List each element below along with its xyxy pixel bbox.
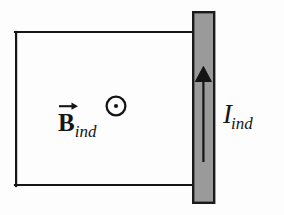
physics-figure: B ind Iind [0, 0, 284, 215]
figure-canvas [0, 0, 284, 215]
field-out-of-page-symbol [107, 97, 126, 116]
conducting-loop-rectangle [15, 32, 195, 186]
field-symbol-dot [114, 104, 118, 108]
